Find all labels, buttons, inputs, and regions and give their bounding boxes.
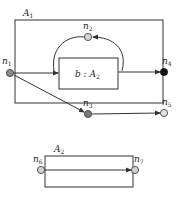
svg-text:n6: n6 xyxy=(33,154,43,165)
svg-text:n5: n5 xyxy=(162,97,172,108)
node-n1[interactable]: n1 xyxy=(2,56,14,77)
svg-text:n1: n1 xyxy=(2,56,12,67)
svg-text:n2: n2 xyxy=(83,21,93,32)
edge-n1-n3 xyxy=(14,75,84,112)
edge-n2-b xyxy=(93,37,123,71)
edge-n3-n5 xyxy=(92,113,160,114)
node-n7[interactable]: n7 xyxy=(131,154,143,174)
node-n5[interactable]: n5 xyxy=(160,97,171,117)
svg-text:n4: n4 xyxy=(162,56,172,67)
outer-box-label: A1 xyxy=(22,8,33,19)
svg-text:n3: n3 xyxy=(83,98,93,109)
node-n2[interactable]: n2 xyxy=(83,21,93,41)
node-n4[interactable]: n4 xyxy=(160,56,171,76)
inner-box-b-a2: b : A2 xyxy=(59,58,118,89)
diagram-canvas: A1 b : A2 n1 n2 n3 n4 n5 A2 xyxy=(0,0,176,198)
lower-box-label: A2 xyxy=(53,144,65,155)
svg-text:n7: n7 xyxy=(134,154,144,165)
node-n6[interactable]: n6 xyxy=(33,154,45,174)
inner-box-label: b : A2 xyxy=(75,69,100,80)
lower-box-a2: A2 xyxy=(45,144,133,187)
edge-b-n2 xyxy=(53,37,84,71)
node-n3[interactable]: n3 xyxy=(83,98,93,118)
